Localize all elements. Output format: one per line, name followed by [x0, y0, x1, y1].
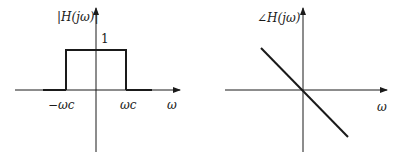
magnitude-x-label: ω [167, 99, 177, 111]
magnitude-y-label: |H(jω)| [57, 11, 98, 23]
diagram-canvas [0, 0, 401, 160]
magnitude-cutoff-neg-label: −ωc [48, 99, 75, 111]
phase-y-label: ∠H(jω) [257, 12, 300, 24]
magnitude-level-label: 1 [101, 33, 109, 45]
phase-line [261, 48, 348, 137]
phase-plot [225, 8, 387, 152]
phase-x-label: ω [377, 101, 387, 113]
magnitude-cutoff-pos-label: ωc [120, 99, 137, 111]
magnitude-plot [15, 8, 180, 152]
